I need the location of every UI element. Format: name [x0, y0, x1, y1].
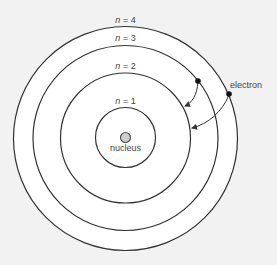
electron-icon-n4	[226, 91, 232, 97]
electron-label: electron	[230, 80, 262, 90]
nucleus-icon	[121, 133, 131, 143]
bohr-model-diagram: n = 4 n = 3 n = 2 n = 1 nucleus electron	[0, 0, 277, 265]
orbit-label-n4: n = 4	[115, 15, 135, 25]
orbit-label-n2: n = 2	[115, 61, 135, 71]
orbit-label-n3: n = 3	[115, 33, 135, 43]
orbit-label-n1: n = 1	[115, 96, 135, 106]
electron-icon-n3	[195, 78, 201, 84]
nucleus-label: nucleus	[110, 143, 142, 153]
